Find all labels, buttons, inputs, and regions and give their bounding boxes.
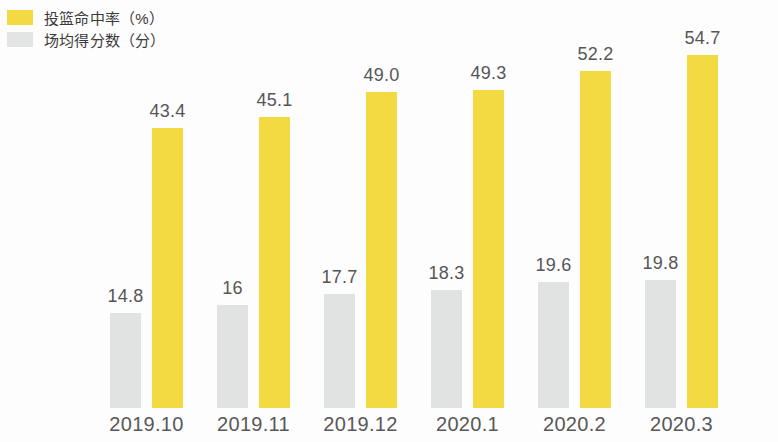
category-axis-label: 2020.1	[436, 413, 499, 436]
bar-value-label: 19.8	[642, 253, 678, 274]
bar-投篮命中率（%）-2020.1: 49.3	[473, 90, 504, 408]
bar-value-label: 17.7	[321, 267, 357, 288]
category-axis: 2019.102019.112019.122020.12020.22020.3	[0, 408, 778, 442]
bar-value-label: 18.3	[428, 263, 464, 284]
bar-chart: 投篮命中率（%） 场均得分数（分） 14.843.41645.117.749.0…	[0, 0, 778, 442]
bar-value-label: 14.8	[107, 286, 143, 307]
category-axis-label: 2020.2	[543, 413, 606, 436]
bar-value-label: 49.0	[363, 65, 399, 86]
category-axis-label: 2019.12	[323, 413, 397, 436]
bar-投篮命中率（%）-2019.12: 49.0	[366, 92, 397, 408]
bar-value-label: 52.2	[577, 44, 613, 65]
bar-value-label: 49.3	[470, 63, 506, 84]
bar-value-label: 54.7	[684, 28, 720, 49]
category-axis-label: 2019.11	[217, 413, 290, 436]
bar-value-label: 43.4	[149, 101, 185, 122]
bar-投篮命中率（%）-2020.2: 52.2	[580, 71, 611, 408]
bar-value-label: 45.1	[256, 90, 292, 111]
category-axis-label: 2020.3	[650, 413, 713, 436]
bar-投篮命中率（%）-2019.10: 43.4	[152, 128, 183, 408]
bar-场均得分数（分）-2019.11: 16	[217, 305, 248, 408]
bar-value-label: 16	[222, 278, 243, 299]
bar-场均得分数（分）-2019.12: 17.7	[324, 294, 355, 408]
bar-投篮命中率（%）-2019.11: 45.1	[259, 117, 290, 408]
bar-场均得分数（分）-2019.10: 14.8	[110, 313, 141, 409]
bar-value-label: 19.6	[535, 255, 571, 276]
bar-投篮命中率（%）-2020.3: 54.7	[687, 55, 718, 408]
category-axis-label: 2019.10	[109, 413, 183, 436]
bar-场均得分数（分）-2020.3: 19.8	[645, 280, 676, 408]
bar-场均得分数（分）-2020.2: 19.6	[538, 282, 569, 408]
plot-area: 14.843.41645.117.749.018.349.319.652.219…	[0, 0, 778, 408]
bar-场均得分数（分）-2020.1: 18.3	[431, 290, 462, 408]
